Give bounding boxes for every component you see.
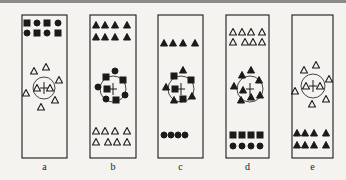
- crosshair-icon: [309, 80, 317, 92]
- open-triangle-icon: [93, 128, 100, 135]
- group-bottom: [230, 132, 263, 149]
- filled-circle-icon: [95, 84, 101, 90]
- open-triangle-icon: [38, 104, 45, 111]
- filled-circle-icon: [103, 96, 109, 102]
- filled-circle-icon: [122, 92, 128, 98]
- group-bottom: [93, 128, 131, 146]
- filled-circle-icon: [55, 20, 61, 26]
- filled-triangle-icon: [189, 93, 196, 100]
- open-triangle-icon: [259, 29, 266, 36]
- crosshair-icon: [40, 82, 48, 94]
- filled-circle-icon: [257, 143, 263, 149]
- open-triangle-icon: [313, 62, 320, 69]
- filled-triangle-icon: [294, 130, 301, 137]
- filled-square-icon: [55, 30, 61, 36]
- open-triangle-icon: [112, 128, 119, 135]
- filled-circle-icon: [182, 132, 188, 138]
- filled-square-icon: [24, 20, 30, 26]
- open-triangle-icon: [248, 29, 255, 36]
- filled-circle-icon: [230, 143, 236, 149]
- open-triangle-icon: [301, 67, 308, 74]
- open-triangle-icon: [309, 101, 316, 108]
- filled-square-icon: [171, 73, 177, 79]
- filled-circle-icon: [44, 30, 50, 36]
- group-top: [161, 40, 199, 47]
- filled-triangle-icon: [93, 22, 100, 29]
- open-triangle-icon: [31, 68, 38, 75]
- filled-square-icon: [44, 20, 50, 26]
- filled-triangle-icon: [180, 40, 187, 47]
- filled-triangle-icon: [93, 34, 100, 41]
- filled-square-icon: [248, 132, 254, 138]
- open-triangle-icon: [56, 77, 63, 84]
- filled-square-icon: [34, 30, 40, 36]
- crosshair-icon: [246, 83, 254, 95]
- filled-circle-icon: [168, 132, 174, 138]
- filled-triangle-icon: [248, 94, 255, 101]
- filled-square-icon: [103, 74, 109, 80]
- filled-triangle-icon: [238, 97, 245, 104]
- filled-triangle-icon: [311, 142, 318, 149]
- filled-triangle-icon: [124, 34, 131, 41]
- filled-triangle-icon: [161, 40, 168, 47]
- filled-triangle-icon: [124, 22, 131, 29]
- group-bottom: [161, 132, 188, 138]
- filled-triangle-icon: [170, 40, 177, 47]
- filled-square-icon: [180, 96, 186, 102]
- filled-triangle-icon: [294, 142, 301, 149]
- filled-triangle-icon: [112, 34, 119, 41]
- open-triangle-icon: [114, 139, 121, 146]
- filled-square-icon: [188, 77, 194, 83]
- open-triangle-icon: [239, 29, 246, 36]
- filled-triangle-icon: [102, 34, 109, 41]
- group-top: [24, 20, 61, 36]
- filled-triangle-icon: [240, 87, 247, 94]
- group-top: [230, 29, 266, 46]
- filled-square-icon: [172, 86, 178, 92]
- filled-triangle-icon: [311, 130, 318, 137]
- filled-triangle-icon: [112, 22, 119, 29]
- filled-square-icon: [113, 97, 119, 103]
- group-cluster: [231, 67, 264, 104]
- panel-label: b: [111, 161, 116, 172]
- panel-a: a: [22, 15, 67, 172]
- panel-label: a: [42, 161, 47, 172]
- panel-e: e: [292, 15, 334, 172]
- filled-circle-icon: [112, 68, 118, 74]
- filled-triangle-icon: [323, 130, 330, 137]
- filled-triangle-icon: [302, 130, 309, 137]
- group-cluster: [23, 64, 63, 111]
- filled-square-icon: [239, 132, 245, 138]
- filled-triangle-icon: [231, 83, 238, 90]
- filled-triangle-icon: [192, 40, 199, 47]
- panel-d: d: [226, 15, 269, 172]
- filled-triangle-icon: [102, 22, 109, 29]
- group-top: [93, 22, 131, 41]
- open-triangle-icon: [43, 64, 50, 71]
- open-triangle-icon: [317, 83, 324, 90]
- panel-label: e: [310, 161, 315, 172]
- group-cluster: [292, 62, 333, 108]
- filled-circle-icon: [24, 30, 30, 36]
- open-triangle-icon: [230, 39, 237, 46]
- filled-square-icon: [257, 132, 263, 138]
- filled-circle-icon: [239, 143, 245, 149]
- group-cluster: [95, 68, 128, 103]
- open-triangle-icon: [105, 139, 112, 146]
- open-triangle-icon: [52, 97, 59, 104]
- open-triangle-icon: [303, 83, 310, 90]
- open-triangle-icon: [242, 39, 249, 46]
- open-triangle-icon: [323, 96, 330, 103]
- diagram-canvas: abcde: [0, 0, 346, 180]
- filled-triangle-icon: [180, 67, 187, 74]
- filled-triangle-icon: [323, 142, 330, 149]
- panel-b: b: [90, 15, 136, 172]
- filled-square-icon: [104, 86, 110, 92]
- open-triangle-icon: [34, 85, 41, 92]
- filled-triangle-icon: [248, 67, 255, 74]
- filled-triangle-icon: [302, 142, 309, 149]
- open-triangle-icon: [259, 39, 266, 46]
- group-bottom: [294, 130, 330, 149]
- filled-square-icon: [230, 132, 236, 138]
- open-triangle-icon: [124, 139, 131, 146]
